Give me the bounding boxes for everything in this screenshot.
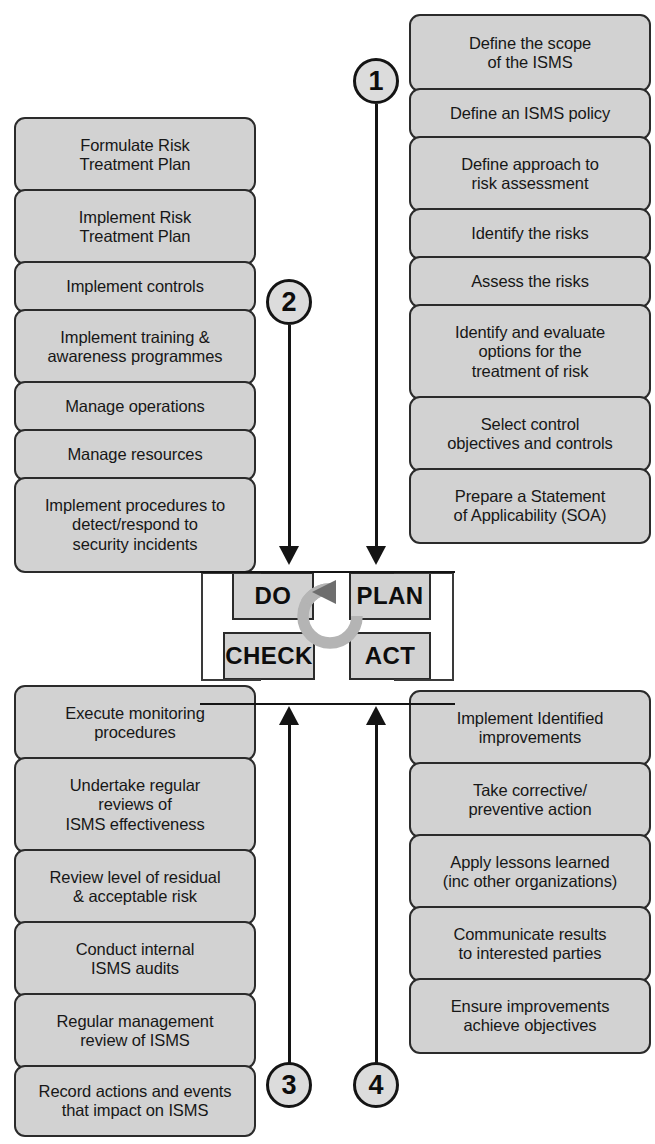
- do-task-1: Formulate Risk Treatment Plan: [14, 117, 256, 193]
- check-task-1: Execute monitoring procedures: [14, 685, 256, 761]
- do-task-5: Manage operations: [14, 381, 256, 433]
- plan-task-3: Define approach to risk assessment: [409, 136, 651, 212]
- do-task-4: Implement training & awareness programme…: [14, 309, 256, 385]
- line-to-act: [375, 725, 378, 1065]
- isms-pdca-diagram: Define the scope of the ISMS Define an I…: [0, 0, 655, 1144]
- marker-4: 4: [353, 1062, 399, 1108]
- arrow-into-act: [366, 706, 386, 725]
- line-to-check: [288, 725, 291, 1065]
- do-task-7: Implement procedures to detect/respond t…: [14, 477, 256, 573]
- check-task-4: Conduct internal ISMS audits: [14, 921, 256, 997]
- marker-3: 3: [266, 1062, 312, 1108]
- do-task-2: Implement Risk Treatment Plan: [14, 189, 256, 265]
- do-task-3: Implement controls: [14, 261, 256, 313]
- check-task-3: Review level of residual & acceptable ri…: [14, 849, 256, 925]
- check-task-6: Record actions and events that impact on…: [14, 1065, 256, 1137]
- arrow-into-plan: [366, 546, 386, 565]
- check-task-5: Regular management review of ISMS: [14, 993, 256, 1069]
- frame-bottom-left-horizontal: [201, 679, 261, 681]
- marker-1: 1: [353, 58, 399, 104]
- frame-left-vertical: [201, 573, 203, 681]
- act-task-4: Communicate results to interested partie…: [409, 906, 651, 982]
- frame-right-vertical: [452, 573, 454, 681]
- frame-bottom-right-horizontal: [394, 679, 454, 681]
- circular-arrow-icon: [292, 578, 368, 654]
- do-task-6: Manage resources: [14, 429, 256, 481]
- act-task-2: Take corrective/ preventive action: [409, 762, 651, 838]
- act-task-1: Implement Identified improvements: [409, 690, 651, 766]
- plan-task-4: Identify the risks: [409, 208, 651, 260]
- plan-task-8: Prepare a Statement of Applicability (SO…: [409, 468, 651, 544]
- arrow-into-check: [279, 706, 299, 725]
- line-to-plan: [375, 104, 378, 552]
- line-to-do: [288, 325, 291, 552]
- arrow-into-do: [279, 546, 299, 565]
- plan-task-1: Define the scope of the ISMS: [409, 14, 651, 92]
- check-task-2: Undertake regular reviews of ISMS effect…: [14, 757, 256, 853]
- act-task-3: Apply lessons learned (inc other organiz…: [409, 834, 651, 910]
- plan-task-6: Identify and evaluate options for the tr…: [409, 304, 651, 400]
- plan-task-2: Define an ISMS policy: [409, 88, 651, 140]
- act-task-5: Ensure improvements achieve objectives: [409, 978, 651, 1054]
- plan-task-7: Select control objectives and controls: [409, 396, 651, 472]
- rail-bottom: [200, 703, 455, 705]
- rail-top: [200, 571, 455, 573]
- marker-2: 2: [266, 279, 312, 325]
- plan-task-5: Assess the risks: [409, 256, 651, 308]
